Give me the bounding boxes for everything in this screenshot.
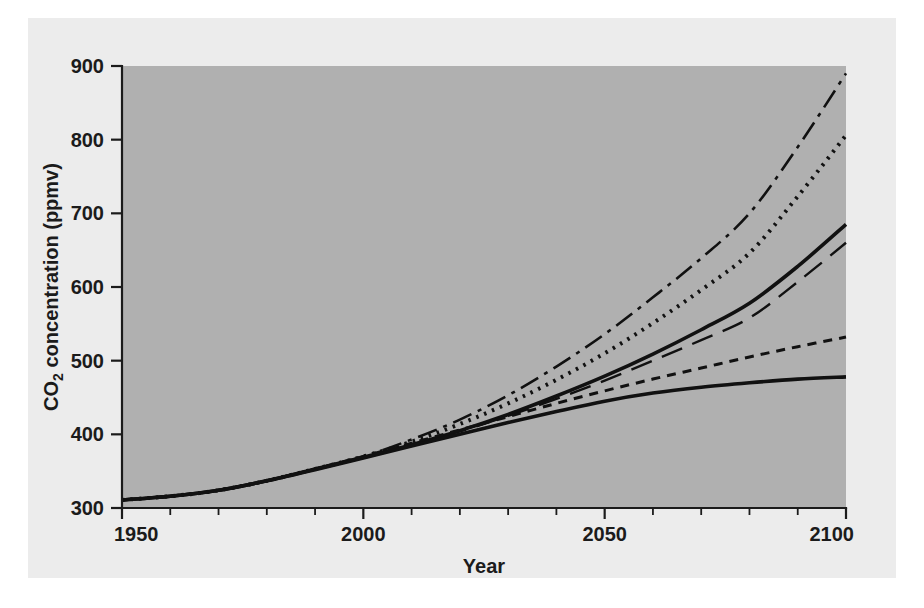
x-axis-title: Year — [463, 555, 505, 577]
y-axis-tick-labels: 300400500600700800900 — [71, 55, 104, 519]
y-axis-title-prefix: CO — [40, 381, 62, 411]
y-axis-title-suffix: concentration (ppmv) — [40, 163, 62, 373]
y-tick-label-500: 500 — [71, 350, 104, 372]
x-tick-label-2000: 2000 — [341, 523, 386, 545]
y-tick-label-400: 400 — [71, 423, 104, 445]
y-axis-title-subscript: 2 — [50, 373, 66, 381]
x-tick-label-1950: 1950 — [114, 523, 159, 545]
figure-root: 300400500600700800900 1950200020502100 C… — [0, 0, 924, 608]
y-tick-label-600: 600 — [71, 276, 104, 298]
plot-area-background — [122, 66, 846, 508]
y-tick-label-800: 800 — [71, 129, 104, 151]
co2-projection-chart: 300400500600700800900 1950200020502100 C… — [0, 0, 924, 608]
y-axis-title: CO2 concentration (ppmv) — [40, 163, 66, 411]
x-tick-label-2100: 2100 — [810, 523, 855, 545]
svg-text:CO2 concentration (ppmv): CO2 concentration (ppmv) — [40, 163, 66, 411]
x-tick-label-2050: 2050 — [582, 523, 627, 545]
y-tick-label-900: 900 — [71, 55, 104, 77]
y-tick-label-700: 700 — [71, 202, 104, 224]
y-tick-label-300: 300 — [71, 497, 104, 519]
x-axis-tick-labels: 1950200020502100 — [114, 523, 854, 545]
